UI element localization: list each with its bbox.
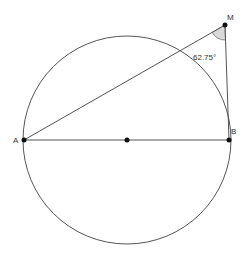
geometry-diagram: A B M 62.75° — [0, 0, 247, 259]
point-a[interactable] — [22, 138, 27, 143]
label-a: A — [13, 136, 19, 145]
point-b[interactable] — [227, 138, 232, 143]
segment-am — [24, 25, 225, 140]
segment-mb — [225, 25, 229, 140]
label-m: M — [227, 13, 234, 22]
angle-label: 62.75° — [193, 53, 216, 62]
label-b: B — [231, 127, 236, 136]
angle-marker-m — [212, 25, 225, 40]
point-m[interactable] — [223, 23, 228, 28]
point-center[interactable] — [125, 138, 130, 143]
